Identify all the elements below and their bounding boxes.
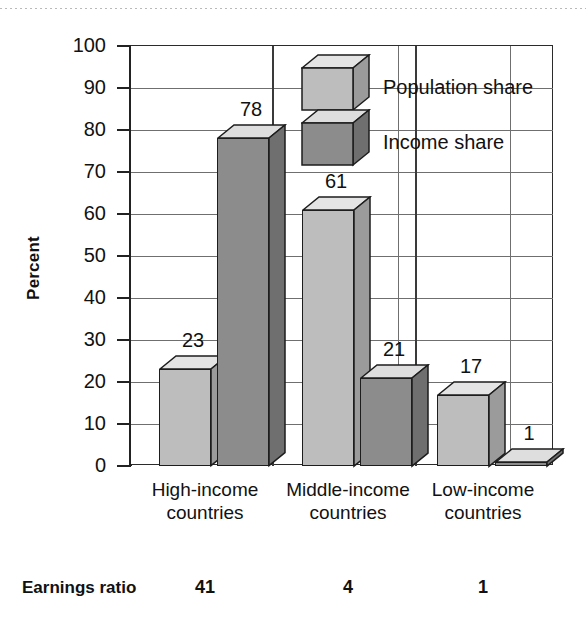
category-label-line: countries [388,501,578,524]
y-tick-label: 70 [62,161,106,181]
bar-income-share [360,378,412,466]
legend-item [301,54,373,113]
legend-swatch-cube [301,54,373,113]
bar-value-label-population: 61 [314,171,358,191]
bar-value-label-population: 17 [449,356,493,376]
y-axis-title: Percent [24,208,44,328]
bar-income-share [495,462,547,466]
bar-front-face [159,369,211,466]
earnings-ratio-label: Earnings ratio [22,578,136,598]
bar-value-label-population: 23 [171,330,215,350]
y-tick-label: 10 [62,413,106,433]
y-tick-label: 100 [62,35,106,55]
bar-side-face [411,364,430,468]
y-tick-label: 40 [62,287,106,307]
legend-label: Income share [383,132,504,152]
bar-population-share [437,395,489,466]
bar-value-label-income: 21 [372,339,416,359]
bar-front-face [437,395,489,466]
bar-population-share [302,210,354,466]
bar-front-face [217,138,269,466]
bar-side-face [268,124,287,468]
earnings-ratio-value: 1 [443,577,523,598]
bar-front-face [495,462,547,466]
y-tick-label: 30 [62,329,106,349]
bar-side-face [546,448,565,468]
bar-front-face [302,210,354,466]
earnings-ratio-value: 41 [165,577,245,598]
category-label-line: Low-income [388,478,578,501]
gridline-vertical [510,46,511,466]
bar-population-share [159,369,211,466]
y-tick-label: 20 [62,371,106,391]
category-label: Low-incomecountries [388,478,578,524]
y-tick-label: 60 [62,203,106,223]
y-tick-label: 80 [62,119,106,139]
bar-income-share [217,138,269,466]
plot-area: 23786121171 Population shareIncome share [131,45,553,465]
legend-swatch-cube [301,109,373,168]
bar-front-face [360,378,412,466]
earnings-ratio-value: 4 [308,577,388,598]
y-tick-label: 50 [62,245,106,265]
chart-figure: Percent 1009080706050403020100 237861211… [0,0,586,624]
top-dotted-rule [0,8,586,9]
legend-label: Population share [383,77,533,97]
y-tick-label: 0 [62,455,106,475]
legend-item [301,109,373,168]
y-tick-label: 90 [62,77,106,97]
bar-value-label-income: 1 [507,423,551,443]
bar-value-label-income: 78 [229,99,273,119]
